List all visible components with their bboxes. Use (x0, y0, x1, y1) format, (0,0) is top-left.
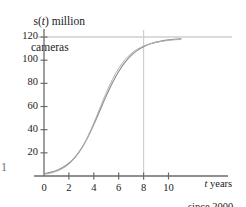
x-tick-label: 2 (55, 182, 83, 193)
y-tick-label: 20 (4, 146, 38, 157)
x-tick-label: 8 (130, 182, 158, 193)
y-tick-label: 80 (4, 76, 38, 87)
curve-series-0 (44, 39, 181, 174)
x-tick-label: 10 (155, 182, 183, 193)
curves-group (38, 30, 232, 180)
y-tick-label: 60 (4, 100, 38, 111)
axes-group (34, 29, 228, 176)
y-tick-label: 120 (4, 30, 38, 41)
y-tick-label: 100 (4, 53, 38, 64)
y-tick-label: 40 (4, 123, 38, 134)
x-tick-label: 0 (30, 182, 58, 193)
x-tick-label: 4 (80, 182, 108, 193)
curve-series-1 (44, 39, 181, 174)
x-tick-label: 6 (105, 182, 133, 193)
tick-marks-group (41, 37, 169, 179)
figure-canvas: s(t) million cameras t years since 2000 … (0, 0, 246, 207)
